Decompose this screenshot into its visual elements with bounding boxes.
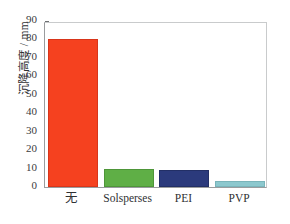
- y-axis-tick-label: 80: [26, 32, 37, 43]
- y-axis-tick-label: 10: [26, 162, 37, 173]
- y-axis-tick-label: 90: [26, 14, 37, 25]
- bar: [48, 39, 98, 187]
- y-axis-tick-label: 60: [26, 69, 37, 80]
- bar: [104, 169, 154, 187]
- y-axis-tick-label: 30: [26, 125, 37, 136]
- chart-figure: 沉降高度 / mm 0102030405060708090 无Solsperse…: [0, 0, 290, 224]
- bar: [215, 181, 265, 187]
- y-axis-tick-label: 0: [32, 180, 38, 191]
- bar: [159, 170, 209, 187]
- y-axis-tick-label: 50: [26, 88, 37, 99]
- y-axis-tick-label: 40: [26, 106, 37, 117]
- y-axis-tick-label: 20: [26, 143, 37, 154]
- plot-area: [44, 22, 267, 188]
- y-axis-tick-label: 70: [26, 51, 37, 62]
- x-axis-tick-label: PVP: [189, 192, 289, 205]
